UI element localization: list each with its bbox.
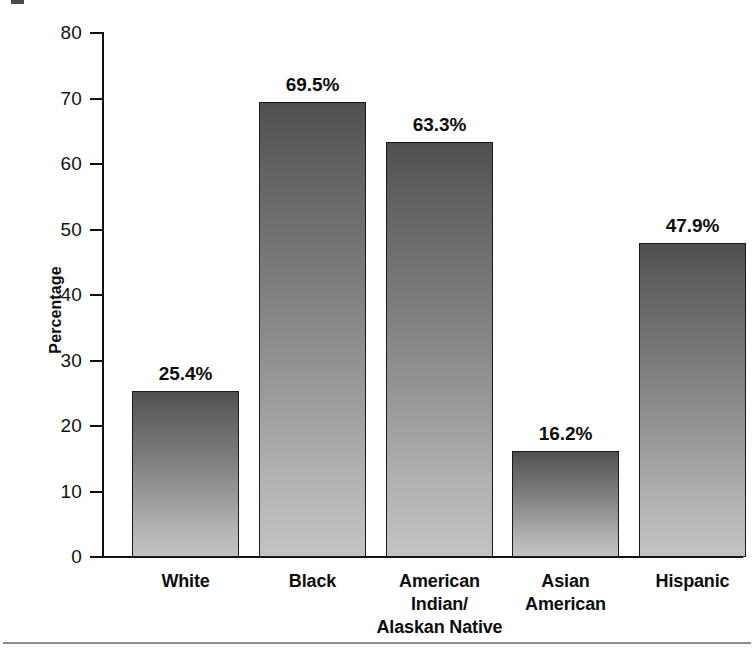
y-axis-tick-label: 0 xyxy=(28,547,82,566)
y-axis-title: Percentage xyxy=(47,250,65,370)
x-axis-category-label: White xyxy=(118,570,253,593)
y-axis-tick-label: 80 xyxy=(28,23,82,42)
category-label-line2: Alaskan Native xyxy=(372,616,507,639)
x-axis-category-label: Hispanic xyxy=(625,570,754,593)
y-axis-tick xyxy=(90,98,103,100)
bar-chart-figure: 01020304050607080 Percentage 25.4%69.5%6… xyxy=(0,0,754,648)
y-axis-tick xyxy=(90,425,103,427)
category-label-line1: White xyxy=(118,570,253,593)
plot-area: 25.4%69.5%63.3%16.2%47.9% xyxy=(103,33,737,557)
y-axis-tick-label: 70 xyxy=(28,89,82,108)
bar-group: 63.3% xyxy=(386,33,493,557)
bar-group: 69.5% xyxy=(259,33,366,557)
bar-value-label: 63.3% xyxy=(413,115,466,134)
bar xyxy=(512,451,619,557)
bar-value-label: 25.4% xyxy=(159,364,212,383)
bar-value-label: 16.2% xyxy=(539,424,592,443)
category-label-line1: Hispanic xyxy=(625,570,754,593)
y-axis-tick xyxy=(90,294,103,296)
category-label-line1: Asian xyxy=(498,570,633,593)
bar-group: 16.2% xyxy=(512,33,619,557)
category-label-line2: American xyxy=(498,593,633,616)
bottom-divider-rule xyxy=(3,642,751,644)
y-axis-tick xyxy=(90,229,103,231)
bar xyxy=(132,391,239,557)
category-label-line1: Black xyxy=(245,570,380,593)
y-axis-tick xyxy=(90,491,103,493)
bar-group: 47.9% xyxy=(639,33,746,557)
y-axis-tick xyxy=(90,32,103,34)
bar-group: 25.4% xyxy=(132,33,239,557)
clipped-caption-remnant xyxy=(11,0,24,4)
x-axis-category-label: AsianAmerican xyxy=(498,570,633,616)
y-axis-tick-label: 60 xyxy=(28,154,82,173)
y-axis-tick xyxy=(90,163,103,165)
x-axis-category-label: Black xyxy=(245,570,380,593)
bar-value-label: 47.9% xyxy=(666,216,719,235)
y-axis-tick-label: 50 xyxy=(28,220,82,239)
bar xyxy=(639,243,746,557)
bar-value-label: 69.5% xyxy=(286,75,339,94)
y-axis-tick-label: 10 xyxy=(28,482,82,501)
bar xyxy=(386,142,493,557)
category-label-line1: American Indian/ xyxy=(372,570,507,616)
y-axis-tick xyxy=(90,556,103,558)
y-axis-tick-label: 20 xyxy=(28,416,82,435)
y-axis-tick xyxy=(90,360,103,362)
x-axis-category-label: American Indian/Alaskan Native xyxy=(372,570,507,639)
bar xyxy=(259,102,366,557)
